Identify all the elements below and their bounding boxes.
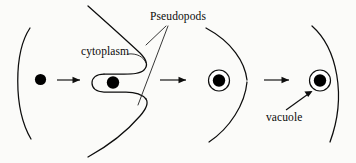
diagram-canvas [0,0,356,163]
pseudopods-leader-upper [146,26,166,45]
stage-4-group [286,26,338,142]
label-vacuole: vacuole [266,112,302,124]
arrow-stage-2-to-3 [160,77,186,83]
food-particle-stage3 [213,74,225,86]
cytoplasm-leader [128,54,146,63]
vacuole-leader-arrow [286,91,313,110]
food-particle-stage2 [107,76,119,88]
upper-pseudopod-membrane [88,6,146,74]
lower-pseudopod-membrane [88,99,147,157]
cytoplasm-pocket [92,74,146,99]
arrow-stage-1-to-2 [57,77,80,83]
cell-membrane-arc-stage1 [18,28,31,139]
phagocytosis-diagram: Pseudopods cytoplasm vacuole [0,0,356,163]
label-pseudopods: Pseudopods [150,11,206,23]
food-particle-stage4 [314,74,326,86]
stage-1-group [18,28,46,139]
cell-membrane-arc-stage3-lower [209,82,247,142]
stage-2-group [88,6,147,157]
arrow-stage-3-to-4 [264,77,289,83]
stage-3-group [206,28,247,142]
food-particle-stage1 [35,74,46,85]
label-cytoplasm: cytoplasm [81,46,129,58]
